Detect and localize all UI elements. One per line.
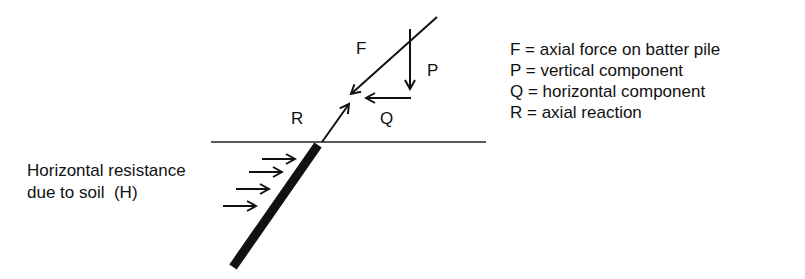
label-p: P: [427, 62, 438, 79]
soil-label-line2: due to soil (H): [27, 182, 186, 204]
soil-resistance-label: Horizontal resistance due to soil (H): [27, 160, 186, 204]
reaction-r-arrow: [322, 104, 349, 142]
label-r: R: [291, 110, 303, 127]
legend-item-p: P = vertical component: [510, 60, 720, 81]
soil-label-line1: Horizontal resistance: [27, 160, 186, 182]
legend: F = axial force on batter pile P = verti…: [510, 39, 720, 123]
label-q: Q: [380, 110, 393, 127]
legend-item-r: R = axial reaction: [510, 102, 720, 123]
legend-item-f: F = axial force on batter pile: [510, 39, 720, 60]
legend-item-q: Q = horizontal component: [510, 81, 720, 102]
label-f: F: [356, 40, 366, 57]
